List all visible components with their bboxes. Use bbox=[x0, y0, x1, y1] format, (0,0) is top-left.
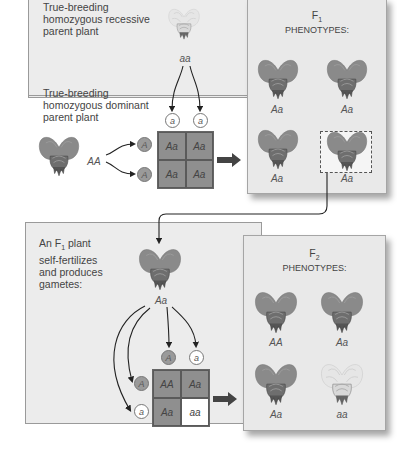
arrow-icon bbox=[172, 66, 183, 110]
arrow-icon bbox=[106, 162, 134, 174]
result-arrow-icon bbox=[213, 392, 237, 406]
arrow-icon bbox=[106, 144, 134, 155]
arrow-icon bbox=[128, 308, 150, 381]
arrow-icon bbox=[172, 307, 196, 346]
arrow-icon bbox=[190, 66, 200, 110]
connector-arrow-icon bbox=[159, 173, 327, 242]
arrow-icon bbox=[114, 306, 145, 410]
result-arrow-icon bbox=[217, 153, 241, 167]
arrow-icon bbox=[167, 307, 169, 346]
arrows-overlay bbox=[0, 0, 397, 460]
